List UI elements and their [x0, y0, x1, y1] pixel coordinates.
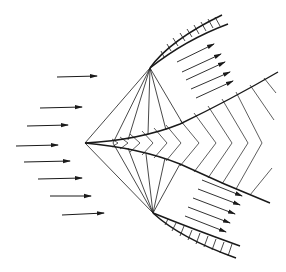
diagram-canvas: [0, 0, 286, 272]
flow-arrow: [16, 145, 58, 146]
characteristic-fan: [85, 68, 183, 213]
upper-jet-boundary: [150, 15, 228, 68]
flow-arrow: [24, 161, 70, 162]
inflow-arrows: [16, 76, 104, 215]
flow-arrow: [62, 213, 104, 215]
flow-arrow: [40, 107, 82, 108]
central-wedge: [85, 72, 278, 203]
flow-arrow: [186, 62, 225, 80]
flow-arrow: [27, 125, 68, 126]
upper-outflow-arrows: [177, 44, 233, 98]
lower-jet-boundary: [153, 213, 240, 258]
flow-arrow: [57, 76, 97, 77]
flow-arrow: [196, 81, 233, 98]
flow-arrow: [38, 178, 82, 179]
jet-interaction-diagram: [0, 0, 286, 272]
flow-arrow: [185, 216, 226, 232]
